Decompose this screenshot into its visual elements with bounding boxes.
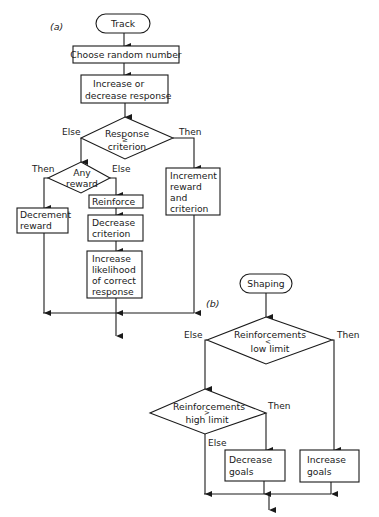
decision2-then-label: Then [31, 164, 54, 174]
decision2-line2: reward [66, 178, 98, 189]
decision2-else-label: Else [112, 164, 131, 174]
increase-goals-box: Increase goals [300, 450, 359, 482]
b-decision2-else-label: Else [208, 438, 227, 448]
b-decision1-else-label: Else [184, 330, 203, 340]
likelihood-line3: of correct [92, 275, 136, 286]
decrease-goals-line1: Decrease [229, 454, 272, 465]
panel-b: (b) Shaping Reinforcements < low limit E… [150, 274, 359, 510]
low-limit-decision: Reinforcements < low limit [207, 317, 332, 364]
step2-line1: Increase or [93, 78, 144, 89]
panel-a: (a) Track Choose random number Increase … [17, 14, 220, 336]
any-reward-decision: Any reward [48, 162, 110, 193]
increment-line2: reward [170, 181, 202, 192]
track-start-terminal: Track [96, 14, 150, 33]
shaping-start-terminal: Shaping [240, 274, 292, 293]
decrease-criterion-line1: Decrease [92, 217, 135, 228]
increase-decrease-response-box: Increase or decrease response [81, 75, 172, 103]
decision1-else-label: Else [62, 127, 81, 137]
likelihood-line4: response [92, 286, 134, 297]
likelihood-line2: likelihood [92, 264, 136, 275]
b-decision2-then-label: Then [267, 401, 290, 411]
increment-line1: Increment [170, 170, 217, 181]
increase-goals-line2: goals [307, 466, 332, 477]
likelihood-line1: Increase [92, 253, 131, 264]
decision1-then-label: Then [178, 127, 201, 137]
decrement-line2: reward [20, 220, 52, 231]
choose-random-number-box: Choose random number [70, 46, 181, 63]
decrease-criterion-line2: criterion [92, 228, 131, 239]
increment-line4: criterion [170, 203, 209, 214]
increment-line3: and [170, 192, 187, 203]
step2-line2: decrease response [85, 90, 172, 101]
decrement-line1: Decrement [20, 209, 71, 220]
increase-goals-line1: Increase [307, 454, 346, 465]
response-criterion-decision: Response ≥ criterion [81, 117, 173, 159]
decrease-criterion-box: Decrease criterion [88, 215, 143, 241]
flowchart-figure: (a) Track Choose random number Increase … [0, 0, 379, 517]
panel-b-label: (b) [206, 298, 219, 309]
b-decision1-line2: low limit [251, 343, 290, 354]
decrease-goals-box: Decrease goals [225, 450, 285, 481]
decision1-line2: criterion [108, 141, 147, 152]
increment-reward-criterion-box: Increment reward and criterion [166, 168, 220, 215]
decrease-goals-line2: goals [229, 466, 254, 477]
decrement-reward-box: Decrement reward [17, 208, 71, 233]
reinforce-text: Reinforce [92, 196, 135, 207]
b-decision1-then-label: Then [336, 330, 359, 340]
choose-random-number-text: Choose random number [70, 49, 181, 60]
track-label: Track [110, 18, 136, 29]
panel-a-label: (a) [50, 21, 63, 32]
increase-likelihood-box: Increase likelihood of correct response [87, 251, 142, 298]
reinforce-box: Reinforce [89, 195, 143, 208]
shaping-label: Shaping [247, 278, 284, 289]
b-decision2-line2: high limit [185, 414, 229, 425]
high-limit-decision: Reinforcements > high limit [150, 389, 266, 434]
decision2-line1: Any [73, 167, 91, 178]
